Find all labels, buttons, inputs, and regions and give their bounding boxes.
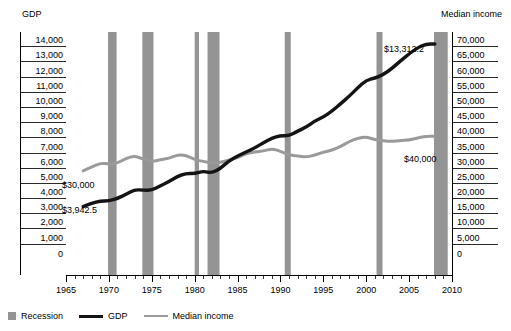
right-axis-tick: 5,000 xyxy=(453,229,498,244)
right-axis-tick-label: 50,000 xyxy=(457,96,485,107)
legend-item-median-income[interactable]: Median income xyxy=(144,311,234,322)
legend-swatch-box xyxy=(8,312,16,320)
x-axis-minor-tick xyxy=(203,276,204,279)
right-axis-tick-label: 60,000 xyxy=(457,66,485,77)
x-axis-minor-tick xyxy=(340,276,341,279)
right-axis-tick: 25,000 xyxy=(453,169,498,184)
right-axis-tick: 45,000 xyxy=(453,108,498,123)
left-axis-tick: 6,000 xyxy=(21,154,66,169)
x-axis-minor-tick xyxy=(298,276,299,279)
recession-band xyxy=(195,32,199,275)
right-axis-tick: 10,000 xyxy=(453,214,498,229)
x-axis-minor-tick xyxy=(332,276,333,279)
x-axis-minor-tick xyxy=(143,276,144,279)
x-axis-tick-label: 1995 xyxy=(313,284,333,296)
x-axis-tick-label: 1975 xyxy=(142,284,162,296)
right-axis-tick: 40,000 xyxy=(453,123,498,138)
plot-svg xyxy=(66,32,452,275)
x-axis-minor-tick xyxy=(135,276,136,279)
x-axis-minor-tick xyxy=(349,276,350,279)
right-axis-tick: 65,000 xyxy=(453,47,498,62)
x-axis-minor-tick xyxy=(117,276,118,279)
right-axis-tick-label: 25,000 xyxy=(457,172,485,183)
legend-label: Median income xyxy=(173,311,234,322)
x-axis-major-tick xyxy=(109,276,110,282)
x-axis-tick-label: 1980 xyxy=(185,284,205,296)
x-axis-major-tick xyxy=(452,276,453,282)
x-axis-minor-tick xyxy=(255,276,256,279)
left-axis-tick-label: 1,000 xyxy=(40,233,63,244)
x-axis-major-tick xyxy=(152,276,153,282)
left-axis-tick-label: 8,000 xyxy=(40,126,63,137)
x-axis-major-tick xyxy=(323,276,324,282)
right-axis-title: Median income xyxy=(441,9,502,20)
legend-item-gdp[interactable]: GDP xyxy=(79,311,128,322)
annotation-income-start: $30,000 xyxy=(62,180,95,191)
x-axis-minor-tick xyxy=(435,276,436,279)
legend-swatch-line xyxy=(79,315,103,318)
left-axis-tick: 1,000 xyxy=(21,229,66,244)
recession-band xyxy=(142,32,153,275)
x-axis-tick-labels: 1965197019751980198519901995200020052010 xyxy=(66,284,453,298)
x-axis-minor-tick xyxy=(392,276,393,279)
left-axis-tick-label: 11,000 xyxy=(36,81,63,92)
left-axis-tick-label: 6,000 xyxy=(40,157,63,168)
x-axis-minor-tick xyxy=(75,276,76,279)
x-axis-ticks xyxy=(66,276,453,284)
x-axis-tick-label: 2000 xyxy=(356,284,376,296)
right-axis-tick: 0 xyxy=(453,245,498,260)
left-axis-tick-label: 9,000 xyxy=(40,111,63,122)
x-axis-tick-label: 1990 xyxy=(270,284,290,296)
x-axis-minor-tick xyxy=(315,276,316,279)
left-axis-tick: 7,000 xyxy=(21,138,66,153)
left-axis-tick-label: 7,000 xyxy=(40,142,63,153)
left-axis-tick: 2,000 xyxy=(21,214,66,229)
left-axis-tick-label: 2,000 xyxy=(40,217,63,228)
left-axis-tick: 3,000 xyxy=(21,199,66,214)
x-axis-tick-label: 1965 xyxy=(56,284,76,296)
left-axis-tick-label: 14,000 xyxy=(35,35,63,46)
chart-container: GDP Median income 14,00013,00012,00011,0… xyxy=(0,0,511,331)
plot-area xyxy=(66,32,452,275)
legend-item-recession[interactable]: Recession xyxy=(8,311,63,322)
right-axis-tick: 50,000 xyxy=(453,93,498,108)
right-axis-tick-label: 45,000 xyxy=(457,111,485,122)
right-axis-tick-label: 20,000 xyxy=(457,187,485,198)
x-axis-major-tick xyxy=(238,276,239,282)
right-axis-tick: 30,000 xyxy=(453,154,498,169)
x-axis-minor-tick xyxy=(418,276,419,279)
x-axis-minor-tick xyxy=(186,276,187,279)
x-axis-minor-tick xyxy=(426,276,427,279)
right-axis-tick-label: 0 xyxy=(457,249,462,260)
legend-swatch-line xyxy=(144,315,168,318)
annotation-gdp-start: $3,942.5 xyxy=(62,205,97,216)
x-axis-minor-tick xyxy=(212,276,213,279)
left-axis-tick: 4,000 xyxy=(21,184,66,199)
right-axis-tick: 60,000 xyxy=(453,62,498,77)
right-axis-tick-label: 55,000 xyxy=(457,81,485,92)
x-axis-minor-tick xyxy=(272,276,273,279)
right-axis-tick: 20,000 xyxy=(453,184,498,199)
right-axis-tick-label: 5,000 xyxy=(457,233,480,244)
left-axis-tick-label: 5,000 xyxy=(40,172,63,183)
x-axis-tick-label: 1970 xyxy=(99,284,119,296)
left-axis-tick: 8,000 xyxy=(21,123,66,138)
recession-band xyxy=(108,32,117,275)
x-axis-minor-tick xyxy=(289,276,290,279)
x-axis-minor-tick xyxy=(178,276,179,279)
right-axis-tick-label: 35,000 xyxy=(457,142,485,153)
x-axis-minor-tick xyxy=(169,276,170,279)
x-axis-minor-tick xyxy=(229,276,230,279)
left-axis-tick-label: 13,000 xyxy=(35,50,63,61)
legend-label: GDP xyxy=(108,311,128,322)
x-axis-minor-tick xyxy=(375,276,376,279)
left-axis-tick-labels: 14,00013,00012,00011,00010,0009,0008,000… xyxy=(20,32,66,275)
left-axis-tick-label: 12,000 xyxy=(35,66,63,77)
left-axis-tick: 13,000 xyxy=(21,47,66,62)
x-axis-minor-tick xyxy=(358,276,359,279)
left-axis-title: GDP xyxy=(22,9,42,20)
left-axis-tick: 0 xyxy=(21,245,66,260)
x-axis-minor-tick xyxy=(263,276,264,279)
left-axis-tick: 12,000 xyxy=(21,62,66,77)
recession-band xyxy=(208,32,220,275)
